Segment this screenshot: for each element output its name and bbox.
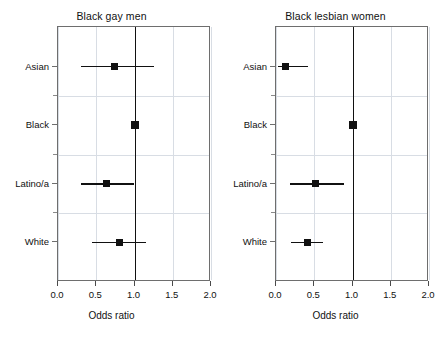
x-axis-tick-label: 0.0 [268, 289, 281, 300]
x-axis-tick [428, 281, 429, 286]
data-point-marker [304, 239, 311, 246]
plot-area [275, 26, 428, 281]
y-axis-minor-tick [53, 95, 57, 96]
x-axis-tick-label: 2.0 [421, 289, 434, 300]
x-axis-title: Odds ratio [0, 310, 223, 321]
data-point-marker [131, 121, 139, 129]
gridline-horizontal [58, 96, 209, 97]
x-axis-tick-label: 0.5 [307, 289, 320, 300]
x-axis-tick [134, 281, 135, 286]
x-axis-tick-label: 0.0 [50, 289, 63, 300]
x-axis-tick [352, 281, 353, 286]
y-axis-minor-tick [271, 95, 275, 96]
y-axis-tick [52, 183, 57, 184]
data-point-marker [349, 121, 357, 129]
gridline-horizontal [58, 213, 209, 214]
y-axis-tick [270, 124, 275, 125]
x-axis-tick [95, 281, 96, 286]
panel-black-gay-men: Black gay men Odds ratio AsianBlackLatin… [0, 0, 223, 340]
data-point-marker [103, 180, 110, 187]
y-axis-tick [52, 66, 57, 67]
reference-line [353, 27, 354, 280]
data-point-marker [282, 63, 289, 70]
gridline-vertical [58, 27, 59, 280]
x-axis-tick-label: 2.0 [203, 289, 216, 300]
gridline-horizontal [276, 155, 427, 156]
panel-title: Black lesbian women [224, 10, 447, 22]
data-point-marker [312, 180, 319, 187]
gridline-horizontal [58, 155, 209, 156]
data-point-marker [116, 239, 123, 246]
y-axis-minor-tick [271, 212, 275, 213]
gridline-vertical [391, 27, 392, 280]
y-axis-tick [270, 66, 275, 67]
panel-black-lesbian-women: Black lesbian women Odds ratio AsianBlac… [224, 0, 447, 340]
y-axis-label-latino-a: Latino/a [15, 177, 49, 188]
y-axis-tick [270, 183, 275, 184]
y-axis-label-asian: Asian [25, 60, 49, 71]
y-axis-minor-tick [271, 154, 275, 155]
y-axis-tick [52, 241, 57, 242]
x-axis-tick-label: 1.0 [127, 289, 140, 300]
x-axis-tick-label: 1.5 [165, 289, 178, 300]
y-axis-label-white: White [243, 236, 267, 247]
x-axis-tick-label: 1.0 [345, 289, 358, 300]
gridline-vertical [173, 27, 174, 280]
y-axis-tick [270, 241, 275, 242]
gridline-horizontal [276, 213, 427, 214]
gridline-vertical [276, 27, 277, 280]
x-axis-tick-label: 1.5 [383, 289, 396, 300]
y-axis-label-asian: Asian [243, 60, 267, 71]
x-axis-tick [313, 281, 314, 286]
plot-area [57, 26, 210, 281]
x-axis-tick [275, 281, 276, 286]
y-axis-label-white: White [25, 236, 49, 247]
y-axis-label-black: Black [26, 119, 49, 130]
forest-plot-figure: Black gay men Odds ratio AsianBlackLatin… [0, 0, 447, 340]
x-axis-tick [172, 281, 173, 286]
x-axis-tick-label: 0.5 [89, 289, 102, 300]
gridline-vertical [429, 27, 430, 280]
x-axis-tick [390, 281, 391, 286]
gridline-vertical [211, 27, 212, 280]
y-axis-minor-tick [53, 154, 57, 155]
data-point-marker [111, 63, 118, 70]
x-axis-tick [210, 281, 211, 286]
y-axis-minor-tick [53, 212, 57, 213]
panel-title: Black gay men [0, 10, 223, 22]
y-axis-tick [52, 124, 57, 125]
x-axis-title: Odds ratio [224, 310, 447, 321]
y-axis-label-latino-a: Latino/a [233, 177, 267, 188]
y-axis-label-black: Black [244, 119, 267, 130]
x-axis-tick [57, 281, 58, 286]
gridline-horizontal [276, 96, 427, 97]
